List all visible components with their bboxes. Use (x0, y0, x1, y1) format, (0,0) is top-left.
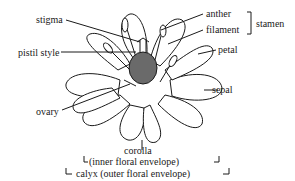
label-stamen: stamen (256, 18, 284, 29)
label-pistil-style: pistil style (18, 47, 59, 58)
label-anther: anther (206, 8, 231, 19)
flower-diagram: stigma pistil style ovary anther filamen… (0, 0, 295, 181)
label-ovary: ovary (36, 106, 59, 117)
label-calyx: calyx (outer floral envelope) (76, 168, 190, 179)
label-filament: filament (206, 24, 239, 35)
ovary-shape (129, 52, 157, 84)
label-petal: petal (218, 44, 237, 55)
label-inner-floral-envelope: (inner floral envelope) (89, 156, 179, 167)
label-corolla: corolla (124, 145, 152, 156)
label-sepal: sepal (212, 84, 233, 95)
label-stigma: stigma (36, 14, 63, 25)
